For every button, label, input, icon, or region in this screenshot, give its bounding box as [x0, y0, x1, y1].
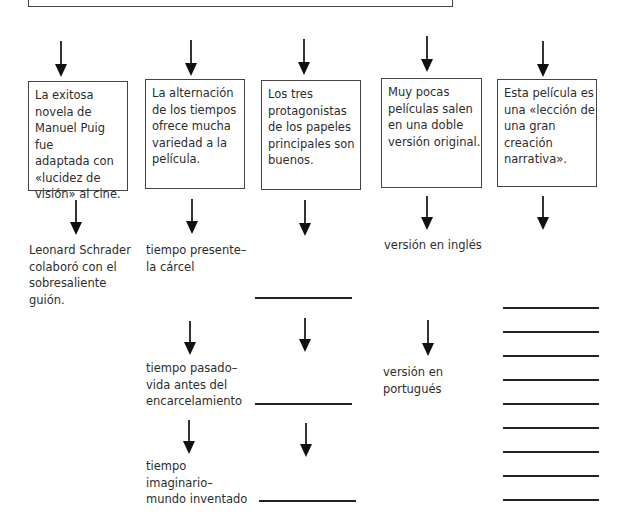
- arrow-down-icon: [299, 318, 311, 354]
- box-line: Muy pocas: [388, 84, 481, 101]
- box-line: principales son: [268, 136, 360, 153]
- arrow-down-icon: [422, 320, 434, 356]
- detail-line: versión en inglés: [384, 237, 482, 254]
- arrow-down-icon: [183, 420, 195, 456]
- concept-box-2: La alternación de los tiempos ofrece muc…: [145, 79, 245, 189]
- box-line: La alternación: [152, 85, 244, 102]
- arrow-down-icon: [421, 36, 433, 72]
- arrow-down-icon: [299, 200, 311, 236]
- box-line: versión original.: [388, 134, 481, 151]
- box-line: «lucidez de: [35, 170, 127, 187]
- concept-box-1: La exitosa novela de Manuel Puig fue ada…: [28, 81, 128, 191]
- concept-box-3: Los tres protagonistas de los papeles pr…: [261, 80, 361, 190]
- detail-line: imaginario–: [146, 475, 247, 492]
- arrow-down-icon: [186, 199, 198, 235]
- detail-line: tiempo: [146, 458, 247, 475]
- answer-blank-line[interactable]: [503, 475, 599, 477]
- answer-blank-line[interactable]: [503, 355, 599, 357]
- box-line: Los tres: [268, 86, 360, 103]
- box-line: de los papeles: [268, 119, 360, 136]
- detail-line: Leonard Schrader: [29, 242, 131, 259]
- box-line: variedad a la: [152, 135, 244, 152]
- box-line: una «lección de: [504, 102, 596, 119]
- top-summary-box: [28, 0, 453, 7]
- arrow-down-icon: [184, 321, 196, 357]
- arrow-down-icon: [298, 39, 310, 75]
- answer-blank-line[interactable]: [503, 451, 599, 453]
- arrow-down-icon: [70, 200, 82, 236]
- arrow-down-icon: [421, 196, 433, 232]
- answer-blank-line[interactable]: [255, 297, 352, 299]
- answer-blank-line[interactable]: [259, 500, 356, 502]
- answer-blank-line[interactable]: [503, 379, 599, 381]
- box-line: Esta película es: [504, 85, 596, 102]
- answer-blank-line[interactable]: [255, 403, 352, 405]
- box-line: de los tiempos: [152, 102, 244, 119]
- detail-line: sobresaliente: [29, 275, 131, 292]
- detail-line: encarcelamiento: [146, 393, 242, 410]
- box-line: Manuel Puig fue: [35, 120, 127, 153]
- detail-text: versión en inglés: [384, 237, 482, 254]
- detail-text: tiempo pasado– vida antes del encarcelam…: [146, 360, 242, 410]
- box-line: narrativa».: [504, 151, 596, 168]
- box-line: una gran: [504, 118, 596, 135]
- detail-text: Leonard Schrader colaboró con el sobresa…: [29, 242, 131, 308]
- answer-blank-line[interactable]: [503, 499, 599, 501]
- concept-box-5: Esta película es una «lección de una gra…: [497, 79, 597, 187]
- concept-box-4: Muy pocas películas salen en una doble v…: [381, 78, 482, 188]
- arrow-down-icon: [537, 196, 549, 232]
- detail-line: vida antes del: [146, 377, 242, 394]
- box-line: adaptada con: [35, 153, 127, 170]
- detail-line: portugués: [383, 381, 443, 398]
- detail-line: la cárcel: [146, 259, 247, 276]
- detail-line: tiempo presente–: [146, 242, 247, 259]
- answer-blank-line[interactable]: [503, 307, 599, 309]
- box-line: La exitosa: [35, 87, 127, 104]
- detail-line: guión.: [29, 292, 131, 309]
- box-line: ofrece mucha: [152, 118, 244, 135]
- detail-text: versión en portugués: [383, 364, 443, 397]
- box-line: buenos.: [268, 152, 360, 169]
- arrow-down-icon: [55, 41, 67, 77]
- answer-blank-line[interactable]: [503, 331, 599, 333]
- arrow-down-icon: [537, 41, 549, 77]
- box-line: en una doble: [388, 117, 481, 134]
- detail-line: colaboró con el: [29, 259, 131, 276]
- detail-line: mundo inventado: [146, 491, 247, 508]
- detail-line: tiempo pasado–: [146, 360, 242, 377]
- answer-blank-line[interactable]: [503, 403, 599, 405]
- detail-line: versión en: [383, 364, 443, 381]
- box-line: novela de: [35, 104, 127, 121]
- detail-text: tiempo presente– la cárcel: [146, 242, 247, 275]
- arrow-down-icon: [300, 423, 312, 459]
- arrow-down-icon: [185, 40, 197, 76]
- box-line: películas salen: [388, 101, 481, 118]
- detail-text: tiempo imaginario– mundo inventado: [146, 458, 247, 508]
- answer-blank-line[interactable]: [503, 427, 599, 429]
- box-line: protagonistas: [268, 103, 360, 120]
- box-line: película.: [152, 151, 244, 168]
- box-line: creación: [504, 135, 596, 152]
